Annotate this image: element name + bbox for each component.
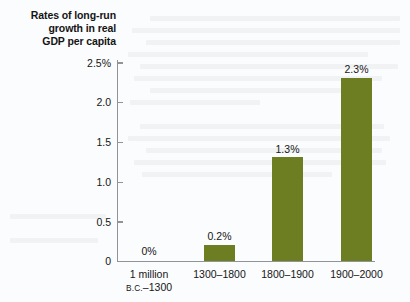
y-tick-mark-1.0	[118, 182, 123, 183]
y-tick-mark-2.5	[118, 62, 123, 63]
bar-value-label-3: 1.3%	[254, 144, 321, 155]
x-category-label-1-line-1: 1 million	[116, 268, 182, 281]
y-axis-title-line-1: Rates of long-run	[8, 9, 116, 22]
x-category-label-1: 1 million B.C.–1300	[116, 268, 182, 294]
era-small-caps: B.C.	[126, 283, 143, 293]
bar-2[interactable]	[204, 245, 235, 261]
y-axis-line	[117, 60, 118, 262]
bar-4[interactable]	[341, 78, 372, 261]
bar-chart-figure: Rates of long-run growth in real GDP per…	[0, 0, 410, 302]
y-tick-mark-0.5	[118, 221, 123, 222]
x-category-label-3: 1800–1900	[254, 268, 321, 281]
y-tick-mark-2.0	[118, 102, 123, 103]
bar-value-label-1: 0%	[116, 246, 182, 257]
x-category-label-1-line-2: B.C.–1300	[116, 281, 182, 295]
y-tick-label-0: 0	[21, 256, 111, 267]
x-axis-line	[117, 261, 375, 262]
y-tick-label-1.0: 1.0	[21, 177, 111, 188]
x-category-label-2: 1300–1800	[186, 268, 253, 281]
x-category-label-1-range: –1300	[143, 281, 172, 293]
y-tick-label-0.5: 0.5	[21, 217, 111, 228]
y-tick-mark-1.5	[118, 142, 123, 143]
y-tick-label-2.5: 2.5%	[21, 58, 111, 69]
y-axis-title-line-3: GDP per capita	[8, 35, 116, 48]
y-tick-label-2.0: 2.0	[21, 97, 111, 108]
x-category-label-4: 1900–2000	[323, 268, 390, 281]
bar-3[interactable]	[272, 157, 303, 260]
y-tick-label-1.5: 1.5	[21, 137, 111, 148]
bar-value-label-4: 2.3%	[323, 64, 390, 75]
y-axis-title-line-2: growth in real	[8, 22, 116, 35]
bar-value-label-2: 0.2%	[186, 231, 253, 242]
y-axis-title: Rates of long-run growth in real GDP per…	[8, 9, 116, 49]
